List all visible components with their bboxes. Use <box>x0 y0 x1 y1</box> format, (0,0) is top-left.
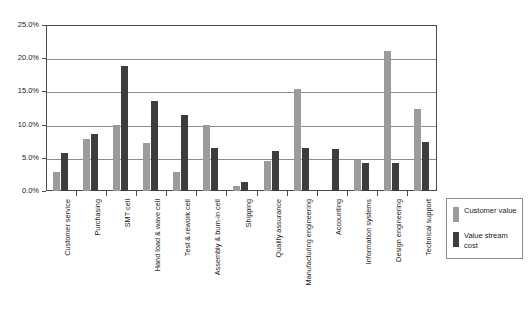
x-axis-tick-label: Accounting <box>335 199 342 235</box>
y-axis-tick-label: 25.0% <box>18 21 39 29</box>
gridline <box>47 126 436 127</box>
x-axis-tick-label: Test & rework cell <box>184 199 191 256</box>
x-axis-tick-mark <box>347 191 348 196</box>
chart-container: 0.0%5.0%10.0%15.0%20.0%25.0% Customer se… <box>0 0 529 315</box>
x-axis-tick-label: SMT cell <box>124 199 131 227</box>
x-axis-tick-mark <box>226 191 227 196</box>
gridline <box>47 59 436 60</box>
legend-swatch-customer-value <box>453 207 459 222</box>
gridline <box>47 159 436 160</box>
x-axis-tick-mark <box>287 191 288 196</box>
gridline <box>47 92 436 93</box>
x-axis-tick-mark <box>257 191 258 196</box>
x-axis-tick-mark <box>166 191 167 196</box>
x-axis-tick-label: Quality assurance <box>275 199 282 257</box>
x-axis-tick-mark <box>106 191 107 196</box>
legend-label-value-stream-cost: Value stream cost <box>464 231 517 251</box>
y-axis-tick-label: 10.0% <box>18 121 39 129</box>
y-axis-tick-label: 5.0% <box>22 154 39 162</box>
x-axis-tick-label: Information systems <box>365 199 372 264</box>
x-axis-tick-label: Manufacturing engineering <box>305 199 312 285</box>
y-axis-tick-label: 15.0% <box>18 87 39 95</box>
x-axis-tick-mark <box>377 191 378 196</box>
chart-legend: Customer value Value stream cost <box>446 198 523 259</box>
legend-swatch-value-stream-cost <box>453 232 459 247</box>
legend-item-value-stream-cost: Value stream cost <box>453 231 517 251</box>
x-axis-tick-label: Purchasing <box>94 199 101 236</box>
x-axis: Customer servicePurchasingSMT cellHand l… <box>46 191 437 315</box>
x-axis-tick-label: Technical support <box>425 199 432 256</box>
y-axis: 0.0%5.0%10.0%15.0%20.0%25.0% <box>0 0 44 315</box>
legend-item-customer-value: Customer value <box>453 206 517 222</box>
x-axis-tick-label: Design engineering <box>395 199 402 262</box>
x-axis-tick-mark <box>196 191 197 196</box>
x-axis-tick-label: Hand load & wave cell <box>154 199 161 271</box>
x-axis-tick-label: Customer service <box>64 199 71 256</box>
x-axis-tick-mark <box>136 191 137 196</box>
plot-area <box>46 25 437 191</box>
y-axis-tick-label: 20.0% <box>18 54 39 62</box>
x-axis-tick-label: Shipping <box>245 199 252 227</box>
x-axis-tick-mark <box>76 191 77 196</box>
x-axis-tick-mark <box>407 191 408 196</box>
legend-label-customer-value: Customer value <box>464 206 517 216</box>
x-axis-tick-mark <box>317 191 318 196</box>
x-axis-tick-label: Assembly & burn-in cell <box>214 199 221 275</box>
y-axis-tick-label: 0.0% <box>22 187 39 195</box>
